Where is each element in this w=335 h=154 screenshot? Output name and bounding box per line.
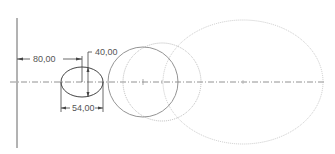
dim-label-80[interactable]: 80,00 (33, 54, 56, 64)
dim-arrow-right (76, 58, 82, 61)
dim-arrow-left (61, 107, 66, 110)
dim-label-54[interactable]: 54,00 (72, 103, 95, 113)
dim-arrow-right (98, 107, 103, 110)
cad-drawing-canvas[interactable] (0, 0, 335, 154)
dim-arrow-left (17, 58, 23, 61)
dim-label-40[interactable]: 40,00 (95, 47, 118, 57)
